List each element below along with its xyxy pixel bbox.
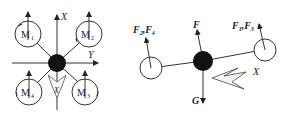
svg-text:M: M: [21, 87, 30, 98]
label-f: F: [192, 19, 200, 30]
side-view-panel: X F2,F4 F F1,F3 G: [132, 19, 276, 106]
svg-text:4: 4: [31, 93, 34, 99]
motor-m2: M 2: [76, 12, 102, 47]
svg-text:X: X: [252, 66, 260, 77]
label-f2-f4: F2,F4: [132, 24, 155, 36]
heading-arrow-icon: [212, 68, 246, 89]
quadrotor-diagram: M 1 M 2 M 3 M 4 X X: [0, 0, 285, 116]
label-f1-f3: F1,F3: [231, 20, 254, 32]
x-axis-label: X: [60, 11, 68, 22]
body-center: [193, 51, 213, 71]
svg-text:M: M: [81, 29, 90, 40]
svg-text:3: 3: [87, 93, 90, 99]
motor-m3: M 3: [72, 71, 98, 105]
label-g: G: [192, 95, 200, 106]
svg-text:M: M: [77, 87, 86, 98]
motor-m1: M 1: [15, 12, 41, 47]
motor-m4: M 4: [16, 71, 42, 105]
motor-label: M: [21, 29, 30, 40]
svg-text:1: 1: [31, 35, 34, 41]
body-center: [48, 54, 66, 72]
y-axis-label: Y: [88, 49, 95, 60]
top-view-panel: M 1 M 2 M 3 M 4 X X: [12, 11, 102, 110]
svg-text:2: 2: [91, 35, 94, 41]
